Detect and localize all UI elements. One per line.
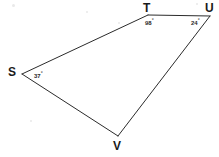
- angle-S: 37°: [34, 71, 43, 79]
- vertex-label-t: T: [143, 2, 150, 14]
- angle-U: 24°: [191, 18, 200, 26]
- edge-st: [22, 15, 148, 74]
- angle-U-degree-symbol: °: [198, 17, 200, 23]
- angle-T-value: 98: [145, 20, 152, 26]
- edge-vs: [22, 74, 118, 136]
- edge-uv: [118, 16, 210, 136]
- angle-S-degree-symbol: °: [41, 70, 43, 76]
- edge-tu: [148, 15, 210, 16]
- angle-T-degree-symbol: °: [152, 17, 154, 23]
- vertex-label-v: V: [113, 140, 121, 152]
- figure-canvas: [0, 0, 219, 157]
- vertex-label-s: S: [8, 66, 16, 78]
- angle-S-value: 37: [34, 73, 41, 79]
- angle-T: 98°: [145, 18, 154, 26]
- angle-U-value: 24: [191, 20, 198, 26]
- edge-group: [22, 15, 210, 136]
- vertex-label-u: U: [205, 2, 214, 14]
- geometry-figure: STUV 37°98°24°: [0, 0, 219, 157]
